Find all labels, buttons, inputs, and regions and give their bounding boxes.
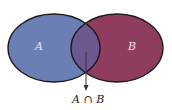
set-b-label: B: [128, 40, 136, 53]
set-a-label: A: [35, 40, 43, 53]
intersection-label: A ∩ B: [72, 93, 104, 106]
